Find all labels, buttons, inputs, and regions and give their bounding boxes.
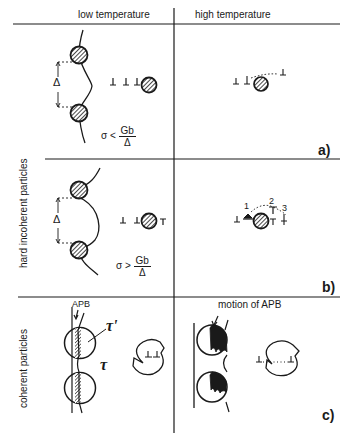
stress-symbol: σ: [101, 130, 107, 141]
column-header-low-temperature: low temperature: [78, 9, 150, 20]
dislocation-particle-diagram: low temperature high temperature hard in…: [0, 0, 352, 444]
fraction: Gb Δ: [134, 255, 151, 278]
path-step-2: 2: [269, 196, 274, 206]
tau-prime-label: τ': [106, 317, 118, 335]
stress-condition-a: σ < Gb Δ: [101, 125, 136, 148]
particle: [71, 242, 88, 259]
fraction: Gb Δ: [119, 125, 136, 148]
grid-lines: [13, 8, 340, 433]
panel-label-b: b): [322, 279, 335, 295]
particle: [254, 214, 269, 229]
spacing-delta-a: Δ: [53, 76, 60, 88]
panel-a-high-temp: [233, 69, 286, 91]
panel-label-c: c): [322, 407, 334, 423]
numerator: Gb: [119, 125, 136, 137]
apb-label: APB: [72, 299, 90, 309]
numerator: Gb: [134, 255, 151, 267]
particle: [71, 182, 88, 199]
particle: [142, 78, 157, 93]
path-step-3: 3: [282, 203, 287, 213]
row-label-hard-incoherent-particles: hard incoherent particles: [18, 158, 29, 268]
comparison-operator: >: [125, 260, 131, 271]
denominator: Δ: [124, 137, 131, 148]
comparison-operator: <: [110, 130, 116, 141]
panel-c-high-temp: [194, 316, 299, 412]
path-step-1: 1: [244, 201, 249, 211]
denominator: Δ: [139, 267, 146, 278]
particle: [254, 77, 268, 91]
panel-label-a: a): [318, 142, 330, 158]
stress-symbol: σ: [116, 260, 122, 271]
motion-of-apb-label: motion of APB: [218, 299, 281, 310]
stress-condition-b: σ > Gb Δ: [116, 255, 151, 278]
column-header-high-temperature: high temperature: [195, 9, 271, 20]
spacing-delta-b: Δ: [53, 213, 60, 225]
particle: [71, 105, 88, 122]
panel-b-high-temp: [234, 205, 287, 228]
particle: [142, 214, 157, 229]
row-label-coherent-particles: coherent particles: [18, 329, 29, 408]
tau-label: τ: [100, 356, 107, 374]
particle: [71, 47, 88, 64]
